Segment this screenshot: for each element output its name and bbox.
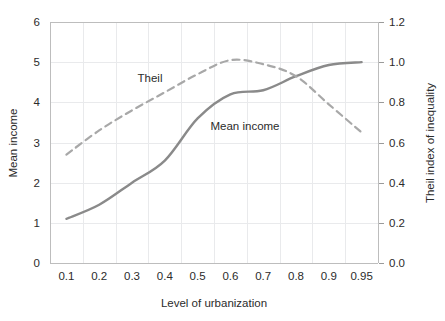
x-axis-tick-label: 0.2 (91, 270, 107, 282)
y-axis-right-tick-label: 0.8 (389, 96, 405, 108)
x-axis-tick-label: 0.3 (124, 270, 140, 282)
y-axis-right-title: Theil index of inequality (424, 83, 436, 203)
y-axis-right-tick-label: 1.2 (389, 16, 405, 28)
x-axis-tick-label: 0.4 (157, 270, 174, 282)
mean-income-series-label: Mean income (210, 120, 279, 132)
y-axis-left-tick-label: 2 (34, 177, 40, 189)
theil-series-label: Theil (138, 72, 163, 84)
y-axis-right-tick-label: 0.2 (389, 217, 405, 229)
y-axis-left-tick-label: 5 (34, 56, 40, 68)
x-axis-tick-label: 0.8 (288, 270, 304, 282)
x-axis-tick-label: 0.9 (321, 270, 337, 282)
chart-canvas: 0123456 0.00.20.40.60.81.01.2 0.10.20.30… (0, 0, 445, 321)
chart-container: 0123456 0.00.20.40.60.81.01.2 0.10.20.30… (0, 0, 445, 321)
y-axis-left-tick-label: 1 (34, 217, 40, 229)
x-axis-tick-label: 0.6 (222, 270, 238, 282)
y-axis-right-tick-label: 0.4 (389, 177, 406, 189)
y-axis-left-tick-label: 6 (34, 16, 40, 28)
x-axis-tick-label: 0.7 (255, 270, 271, 282)
y-axis-right-tick-label: 1.0 (389, 56, 405, 68)
y-axis-left-tick-label: 3 (34, 137, 40, 149)
y-axis-right-tick-label: 0.6 (389, 137, 405, 149)
y-axis-left-tick-label: 0 (34, 257, 40, 269)
x-axis-title: Level of urbanization (161, 297, 267, 309)
y-axis-left-title: Mean income (7, 108, 19, 177)
x-axis-tick-label: 0.95 (350, 270, 372, 282)
y-axis-left-tick-label: 4 (34, 96, 41, 108)
x-axis-tick-label: 0.5 (190, 270, 206, 282)
y-axis-right-tick-label: 0.0 (389, 257, 405, 269)
x-axis-tick-label: 0.1 (58, 270, 74, 282)
